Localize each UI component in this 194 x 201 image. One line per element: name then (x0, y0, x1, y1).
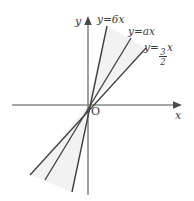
origin-label: O (91, 106, 100, 117)
line-label-steep-var: x (118, 13, 124, 25)
line-label-middle-var: x (149, 25, 155, 37)
x-axis-label: x (175, 110, 181, 121)
line-label-shallow: y=32x (144, 42, 173, 66)
fraction-denominator: 2 (159, 58, 166, 66)
line-label-middle-eq: = (134, 25, 143, 37)
line-label-middle: y=ax (128, 26, 155, 37)
line-label-shallow-eq: = (150, 41, 159, 53)
line-graph-figure (0, 0, 194, 201)
figure-background (0, 0, 194, 201)
line-label-steep: y=6x (97, 14, 124, 25)
line-label-shallow-fraction: 32 (159, 48, 166, 67)
line-label-steep-eq: = (103, 13, 112, 25)
fraction-numerator: 3 (159, 48, 166, 56)
y-axis-label: y (75, 16, 81, 27)
line-label-shallow-var: x (167, 41, 173, 53)
